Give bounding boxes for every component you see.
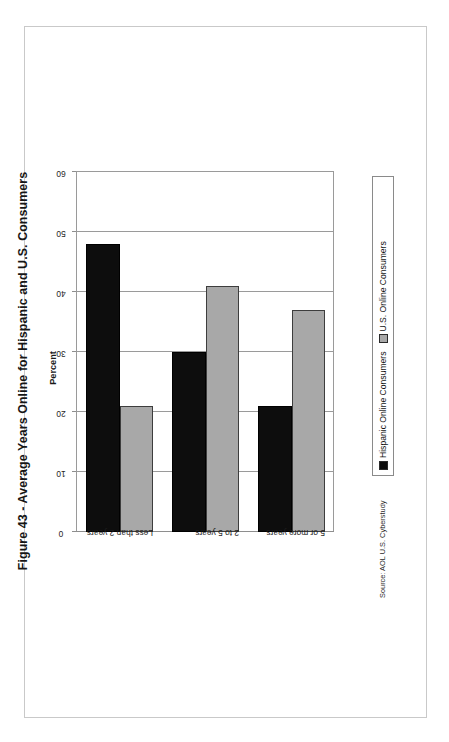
figure-title-container: Figure 43 - Average Years Online for His… <box>8 0 38 742</box>
category-label: 5 or more years <box>267 528 326 538</box>
chart-container: Percent 0102030405060Less than 2 years2 … <box>46 148 354 588</box>
legend-label-us: U.S. Online Consumers <box>378 241 388 331</box>
axis-tick-label: 60 <box>47 165 75 179</box>
bar-1-0[interactable] <box>120 406 154 532</box>
source-note: Source: AOL U.S. Cyberstudy <box>374 488 390 598</box>
axis-bottom-line <box>333 172 334 532</box>
category-label: 2 to 5 years <box>196 528 240 538</box>
chart-plate: Percent 0102030405060Less than 2 years2 … <box>46 148 354 588</box>
legend-label-hispanic: Hispanic Online Consumers <box>378 351 388 458</box>
value-axis-title: Percent <box>48 148 58 588</box>
filled-square-icon <box>379 461 388 470</box>
bar-0-2[interactable] <box>258 406 292 532</box>
bar-group <box>86 172 153 532</box>
legend-item-us: U.S. Online Consumers <box>378 241 388 343</box>
axis-tick-label: 20 <box>47 405 75 419</box>
bar-group <box>172 172 239 532</box>
axis-tick-label: 40 <box>47 285 75 299</box>
bar-1-1[interactable] <box>206 286 240 532</box>
bar-0-0[interactable] <box>86 244 120 532</box>
axis-tick-label: 0 <box>47 525 75 539</box>
bar-group <box>258 172 325 532</box>
source-note-container: Source: AOL U.S. Cyberstudy <box>374 488 396 598</box>
filled-square-icon <box>379 334 388 343</box>
axis-tick-label: 50 <box>47 225 75 239</box>
bar-1-2[interactable] <box>292 310 326 532</box>
axis-tick-label: 10 <box>47 465 75 479</box>
category-label: Less than 2 years <box>87 528 153 538</box>
chart-legend: Hispanic Online Consumers U.S. Online Co… <box>372 176 394 476</box>
axis-top-line <box>76 172 77 532</box>
page-title: Figure 43 - Average Years Online for His… <box>8 0 38 742</box>
legend-container: Hispanic Online Consumers U.S. Online Co… <box>372 176 398 476</box>
scanned-page: Figure 43 - Average Years Online for His… <box>0 0 449 742</box>
bar-0-1[interactable] <box>172 352 206 532</box>
axis-tick-label: 30 <box>47 345 75 359</box>
plot-area: 0102030405060Less than 2 years2 to 5 yea… <box>76 172 334 532</box>
legend-item-hispanic: Hispanic Online Consumers <box>378 351 388 470</box>
bar-chart: Percent 0102030405060Less than 2 years2 … <box>46 148 354 588</box>
